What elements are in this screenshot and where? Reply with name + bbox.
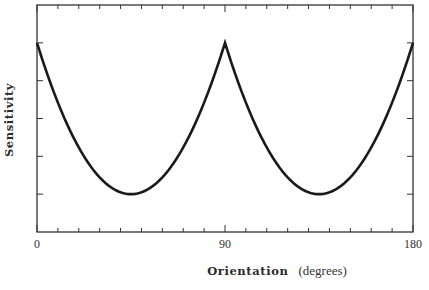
x-axis-ticks-bottom bbox=[37, 225, 413, 232]
sensitivity-chart: 0 90 180 Orientation (degrees) Sensitivi… bbox=[0, 0, 429, 290]
sensitivity-curve bbox=[37, 43, 413, 194]
x-axis-title: Orientation (degrees) bbox=[207, 260, 347, 279]
x-axis-ticks-top bbox=[37, 5, 413, 12]
y-axis-ticks-left bbox=[37, 43, 43, 194]
x-tick-label-180: 180 bbox=[404, 237, 422, 251]
x-tick-label-90: 90 bbox=[219, 237, 231, 251]
y-axis-ticks-right bbox=[407, 43, 413, 194]
x-axis-title-unit: (degrees) bbox=[298, 263, 346, 278]
x-axis-title-main: Orientation bbox=[207, 264, 288, 278]
y-axis-title: Sensitivity bbox=[2, 83, 16, 157]
x-tick-label-0: 0 bbox=[34, 237, 40, 251]
